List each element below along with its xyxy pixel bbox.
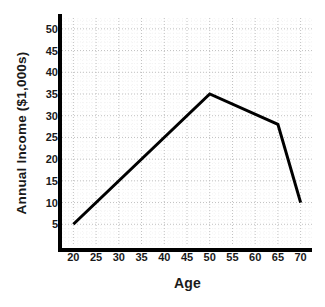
x-axis-title: Age (60, 275, 315, 291)
y-axis-tick-label: 20 (32, 154, 58, 165)
y-axis-tick-label: 30 (32, 110, 58, 121)
y-axis-tick-label: 35 (32, 89, 58, 100)
line-chart-figure: Annual Income ($1,000s) 5101520253035404… (0, 0, 325, 307)
y-axis-tick-label: 10 (32, 197, 58, 208)
major-gridlines (62, 18, 312, 246)
plot-svg (62, 18, 312, 246)
y-axis-tick-label: 40 (32, 67, 58, 78)
plot-area (62, 18, 312, 246)
x-axis-tick-labels: 2025303540455055606570 (0, 252, 325, 268)
y-axis-tick-label: 15 (32, 175, 58, 186)
y-axis-tick-label: 50 (32, 23, 58, 34)
x-axis-tick-label: 70 (286, 252, 316, 263)
y-axis-tick-label: 45 (32, 45, 58, 56)
y-axis-tick-label: 5 (32, 219, 58, 230)
y-axis-tick-label: 25 (32, 132, 58, 143)
